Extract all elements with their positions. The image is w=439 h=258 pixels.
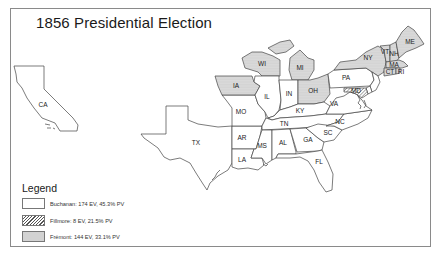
label-ca: CA bbox=[38, 101, 48, 108]
legend-title: Legend bbox=[22, 182, 57, 194]
label-pa: PA bbox=[342, 74, 351, 81]
state-ri[interactable]: RI bbox=[396, 68, 404, 75]
legend-label-fillmore: Fillmore: 8 EV, 21.5% PV bbox=[50, 218, 113, 224]
label-vt: VT bbox=[381, 48, 389, 55]
legend-item-buchanan: Buchanan: 174 EV, 45.3% PV bbox=[22, 198, 124, 209]
state-ma[interactable]: MA bbox=[386, 60, 408, 68]
label-md: MD bbox=[351, 87, 361, 94]
label-ct: CT bbox=[386, 68, 395, 75]
label-ma: MA bbox=[389, 61, 399, 68]
label-nc: NC bbox=[335, 118, 345, 125]
label-va: VA bbox=[330, 100, 339, 107]
label-fl: FL bbox=[315, 158, 323, 165]
label-tn: TN bbox=[280, 120, 289, 127]
label-tx: TX bbox=[192, 139, 201, 146]
label-il: IL bbox=[264, 93, 270, 100]
label-me: ME bbox=[405, 38, 415, 45]
label-la: LA bbox=[238, 156, 247, 163]
state-wi[interactable]: WI bbox=[242, 52, 280, 76]
label-ri: RI bbox=[398, 68, 405, 75]
swatch-hatched-icon bbox=[22, 215, 45, 226]
legend-item-fremont: Frémont: 144 EV, 33.1% PV bbox=[22, 231, 120, 242]
legend-label-buchanan: Buchanan: 174 EV, 45.3% PV bbox=[50, 201, 124, 207]
label-sc: SC bbox=[323, 129, 332, 136]
swatch-plain-icon bbox=[22, 198, 45, 209]
label-ny: NY bbox=[363, 54, 373, 61]
label-in: IN bbox=[286, 90, 293, 97]
state-ia[interactable]: IA bbox=[215, 76, 260, 95]
swatch-dotted-icon bbox=[22, 231, 45, 242]
state-tx[interactable]: TX bbox=[141, 106, 232, 190]
state-ct[interactable]: CT bbox=[384, 68, 396, 76]
label-wi: WI bbox=[258, 60, 266, 67]
label-ms: MS bbox=[257, 142, 267, 149]
label-mo: MO bbox=[236, 108, 246, 115]
label-ia: IA bbox=[233, 82, 240, 89]
legend-item-fillmore: Fillmore: 8 EV, 21.5% PV bbox=[22, 215, 113, 226]
state-ca[interactable]: CA bbox=[14, 66, 78, 131]
label-ar: AR bbox=[237, 134, 246, 141]
label-al: AL bbox=[279, 139, 287, 146]
label-ga: GA bbox=[303, 136, 313, 143]
legend-label-fremont: Frémont: 144 EV, 33.1% PV bbox=[50, 234, 120, 240]
state-fl[interactable]: FL bbox=[276, 150, 333, 192]
state-me[interactable]: ME bbox=[396, 26, 424, 58]
label-mi: MI bbox=[296, 64, 303, 71]
label-ky: KY bbox=[296, 107, 305, 114]
label-oh: OH bbox=[308, 87, 318, 94]
state-pa[interactable]: PA bbox=[328, 68, 374, 88]
